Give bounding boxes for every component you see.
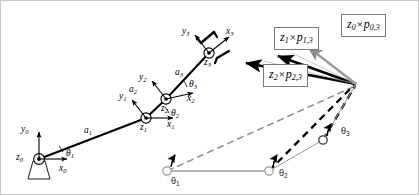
cp1-times: ×: [289, 31, 297, 43]
cross-product-z1-p13-box: z1×p1,3: [274, 27, 319, 50]
frame-0-x-sub: 0: [63, 167, 66, 174]
frame-0-x-label: x0: [59, 164, 66, 174]
frame-3-z-sub: 3: [208, 61, 211, 68]
cp3-p-sub: 2,3: [292, 73, 302, 82]
link-a2-sub: 2: [134, 88, 137, 95]
frame-1-x-sub: 1: [171, 123, 174, 130]
theta-1-upper-label: θ1: [66, 149, 74, 159]
upper-arm-links: [39, 53, 209, 159]
cp2-p-sub: 0,3: [370, 23, 380, 32]
frame-0-z-sub: 0: [20, 156, 23, 163]
frame-3-x-sub: 3: [230, 30, 233, 37]
cp1-p-sub: 1,3: [303, 36, 313, 45]
frame-3-y-sub: 3: [186, 30, 189, 37]
theta-2-upper-sub: 2: [176, 112, 179, 119]
cross-product-z0-p03-box: z0×p0,3: [341, 14, 386, 37]
theta-1-lower-label: θ1: [171, 177, 180, 187]
theta-2-upper-label: θ2: [171, 109, 179, 119]
frame-1-z-label: z1: [140, 123, 147, 133]
upper-theta-arcs: [59, 80, 187, 152]
frame-1-z-sub: 1: [144, 126, 147, 133]
cross-product-z2-p23-box: z2×p2,3: [263, 64, 308, 87]
frame-2-z-label: z2: [161, 104, 168, 114]
frame-0-y-sub: 0: [25, 128, 28, 135]
frame-1-y-label: y1: [119, 92, 126, 102]
jacobian-figure: y0 z0 x0 y1 z1 x1 y2 z2 x2 y3 z3 x3 a1 a…: [0, 0, 419, 195]
theta-1-upper-sub: 1: [71, 152, 74, 159]
theta-2-lower-sub: 2: [284, 172, 288, 179]
frame-0-z-label: z0: [16, 153, 23, 163]
cp2-times: ×: [356, 18, 364, 30]
frame-3-x-label: x3: [226, 27, 233, 37]
cp3-times: ×: [278, 68, 286, 80]
link-a3-label: a3: [175, 68, 183, 78]
link-a1-sub: 1: [89, 129, 92, 136]
theta-3-lower-label: θ3: [341, 127, 350, 137]
theta-3-upper-sub: 3: [194, 83, 197, 90]
frame-2-z-sub: 2: [165, 107, 168, 114]
frame-1-x-label: x1: [167, 120, 174, 130]
gripper: [197, 32, 229, 63]
frame-2-y-sub: 2: [143, 76, 146, 83]
theta-1-lower-sub: 1: [176, 180, 180, 187]
frame-2-x-label: x2: [187, 94, 194, 104]
frame-2-y-label: y2: [139, 73, 146, 83]
link-a2-label: a2: [129, 85, 137, 95]
frame-0-axes: [34, 132, 67, 164]
theta-3-lower-sub: 3: [346, 130, 350, 137]
theta-3-upper-label: θ3: [189, 80, 197, 90]
frame-3-y-label: y3: [182, 27, 189, 37]
frame-2-x-sub: 2: [191, 97, 194, 104]
link-a1-label: a1: [84, 126, 92, 136]
frame-0-y-label: y0: [21, 125, 28, 135]
frame-1-y-sub: 1: [123, 95, 126, 102]
frame-3-z-label: z3: [204, 58, 211, 68]
theta-2-lower-label: θ2: [279, 169, 288, 179]
link-a3-sub: 3: [180, 71, 183, 78]
